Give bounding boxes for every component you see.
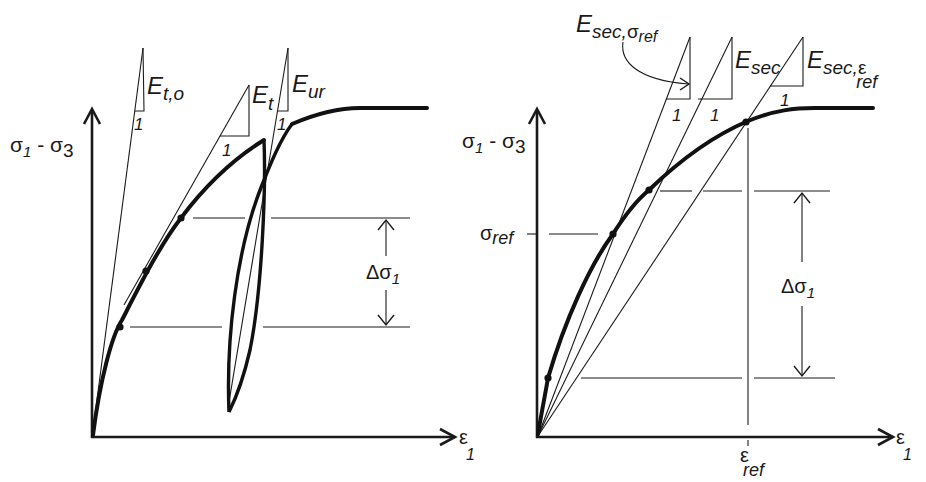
initial-tangent-modulus: 1 Et,o — [93, 48, 184, 430]
right-delta-sigma-dimension: Δσ1 — [781, 193, 815, 376]
curve-point — [609, 230, 616, 237]
sigma-ref-label: σref — [480, 222, 515, 248]
right-panel: σ1 - σ3 ε1 σref εref 1 — [462, 10, 912, 480]
unit-label: 1 — [134, 115, 143, 134]
modulus-label-e-t: Et — [252, 81, 274, 114]
sigma-ref-tick: σref — [480, 222, 598, 248]
right-x-axis-label: ε1 — [896, 426, 912, 463]
epsilon-ref-label: εref — [740, 444, 766, 480]
stress-strain-diagram: σ1 - σ3 ε1 1 Et,o 1 Et 1 — [0, 0, 926, 482]
secant-modulus: 1 — [538, 37, 732, 436]
left-plateau-curve — [292, 108, 427, 124]
curve-point — [177, 214, 184, 221]
left-y-axis-label: σ1 - σ3 — [10, 133, 74, 161]
left-delta-sigma-label: Δσ1 — [366, 261, 400, 287]
secant-eps-ref-modulus: 1 — [538, 37, 803, 436]
curve-point — [742, 118, 749, 125]
modulus-label-e-sec-sigma-ref: Esec,σref — [576, 10, 659, 45]
right-axes — [529, 109, 893, 445]
modulus-label-e-ur: Eur — [292, 70, 326, 102]
right-y-axis-label: σ1 - σ3 — [462, 129, 526, 157]
modulus-label-e-sec: Esec — [735, 46, 781, 78]
unit-label: 1 — [277, 115, 286, 134]
epsilon-ref-tick: εref — [740, 128, 766, 480]
right-stress-strain-curve — [538, 108, 873, 434]
unload-reload-modulus: 1 Eur — [228, 48, 326, 408]
unit-label: 1 — [672, 106, 681, 125]
unit-label: 1 — [780, 91, 789, 110]
left-x-axis-label: ε1 — [459, 426, 475, 463]
left-panel: σ1 - σ3 ε1 1 Et,o 1 Et 1 — [10, 48, 475, 463]
curve-point — [142, 267, 149, 274]
modulus-label-e-t-o: Et,o — [147, 72, 184, 104]
unit-label: 1 — [710, 106, 719, 125]
unit-label: 1 — [222, 141, 231, 160]
curve-point — [645, 186, 652, 193]
right-delta-sigma-label: Δσ1 — [781, 275, 815, 301]
curve-point — [544, 374, 551, 381]
curve-point — [116, 323, 123, 330]
left-delta-sigma-dimension: Δσ1 — [366, 220, 400, 325]
modulus-label-e-sec-eps-ref: Esec,εref — [807, 46, 879, 92]
